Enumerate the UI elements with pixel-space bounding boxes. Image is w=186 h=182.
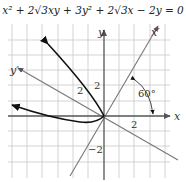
- parabola-diagram: x y x′ y′ 2 2 −2 2 60°: [0, 0, 186, 182]
- angle-label: 60°: [138, 88, 156, 99]
- y-tick-2: 2: [94, 80, 100, 91]
- y-tick-neg-2: −2: [88, 144, 103, 155]
- y-prime-tick-2: 2: [77, 85, 83, 96]
- x-prime-label: x′: [151, 26, 160, 39]
- x-axis-label: x: [174, 110, 181, 123]
- x-tick-2: 2: [131, 119, 137, 130]
- y-prime-label: y′: [9, 64, 19, 77]
- y-axis-label: y: [97, 26, 105, 39]
